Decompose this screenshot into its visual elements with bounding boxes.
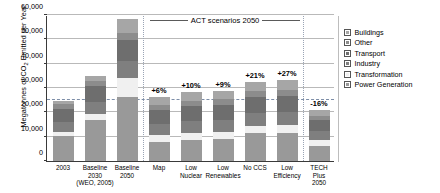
legend-item: Other bbox=[344, 38, 412, 47]
bar-segment bbox=[181, 121, 202, 133]
legend-label: Industry bbox=[355, 59, 381, 68]
y-tick-mark bbox=[44, 14, 47, 15]
bar bbox=[309, 110, 330, 161]
y-tick-mark bbox=[44, 87, 47, 88]
bar bbox=[117, 19, 138, 161]
bar bbox=[85, 76, 106, 161]
percent-change-label: +21% bbox=[245, 71, 264, 80]
bar bbox=[277, 80, 298, 161]
act-region-left-separator bbox=[143, 16, 144, 161]
bar-segment bbox=[117, 78, 138, 97]
bar-segment bbox=[117, 19, 138, 32]
y-tick-label: 50,000 bbox=[21, 26, 43, 35]
bar-segment bbox=[181, 140, 202, 161]
y-tick-label: 40,000 bbox=[21, 50, 43, 59]
bar-segment bbox=[245, 113, 266, 126]
bar-segment bbox=[245, 82, 266, 91]
bar-segment bbox=[213, 139, 234, 161]
percent-change-label: +9% bbox=[216, 80, 231, 89]
y-tick-label: 20,000 bbox=[21, 99, 43, 108]
chart-figure: Megatonnes of CO2 Emitted per Year 010,0… bbox=[0, 0, 440, 193]
act-scenarios-annotation: ACT scenarios 2050 bbox=[150, 16, 300, 25]
bar bbox=[213, 91, 234, 161]
bar-segment bbox=[181, 92, 202, 101]
percent-change-label: +27% bbox=[277, 69, 296, 78]
bar-segment bbox=[53, 136, 74, 161]
y-tick-label: 10,000 bbox=[21, 123, 43, 132]
x-tick-label: TECHPlus2050 bbox=[296, 164, 342, 187]
legend-item: Transport bbox=[344, 49, 412, 58]
bar-segment bbox=[309, 131, 330, 140]
act-annotation-label: ACT scenarios 2050 bbox=[191, 16, 260, 25]
legend-swatch bbox=[344, 39, 351, 46]
y-tick-mark bbox=[44, 111, 47, 112]
bar-segment bbox=[181, 106, 202, 120]
act-annotation-rule-right bbox=[262, 20, 300, 21]
gridline bbox=[47, 63, 334, 64]
legend: BuildingsOtherTransportIndustryTransform… bbox=[344, 28, 412, 89]
legend-item: Transformation bbox=[344, 70, 412, 79]
bar-segment bbox=[117, 61, 138, 78]
legend-label: Power Generation bbox=[355, 80, 413, 89]
bar-segment bbox=[245, 126, 266, 133]
bar-segment bbox=[245, 133, 266, 161]
percent-change-label: +6% bbox=[152, 86, 167, 95]
legend-item: Power Generation bbox=[344, 80, 412, 89]
bar bbox=[181, 92, 202, 161]
legend-swatch bbox=[344, 81, 351, 88]
bar-segment bbox=[245, 97, 266, 113]
legend-label: Transformation bbox=[355, 70, 403, 79]
percent-change-label: +10% bbox=[181, 81, 200, 90]
bar-segment bbox=[277, 112, 298, 125]
act-region-right-separator bbox=[303, 16, 304, 161]
y-tick-label: 60,000 bbox=[21, 2, 43, 11]
percent-change-label: -16% bbox=[310, 99, 327, 108]
bar-segment bbox=[85, 120, 106, 161]
bar-segment bbox=[213, 91, 234, 100]
bar-segment bbox=[53, 122, 74, 133]
bar-segment bbox=[277, 125, 298, 132]
bar-segment bbox=[149, 124, 170, 135]
y-tick-mark bbox=[44, 38, 47, 39]
bar-segment bbox=[149, 142, 170, 161]
bar-segment bbox=[213, 120, 234, 132]
bar-segment bbox=[277, 80, 298, 90]
legend-label: Other bbox=[355, 38, 373, 47]
gridline bbox=[47, 38, 334, 39]
bar-segment bbox=[149, 135, 170, 143]
bar-segment bbox=[117, 33, 138, 41]
legend-swatch bbox=[344, 50, 351, 57]
y-tick-mark bbox=[44, 63, 47, 64]
legend-item: Industry bbox=[344, 59, 412, 68]
legend-item: Buildings bbox=[344, 28, 412, 37]
bar-segment bbox=[309, 146, 330, 161]
y-axis-title-subscript: 2 bbox=[22, 62, 28, 65]
gridline bbox=[47, 14, 334, 15]
bar-segment bbox=[213, 105, 234, 120]
bar-segment bbox=[213, 132, 234, 139]
bar bbox=[149, 97, 170, 161]
legend-label: Buildings bbox=[355, 28, 384, 37]
bar-segment bbox=[149, 110, 170, 123]
bar-segment bbox=[149, 97, 170, 105]
bar-segment bbox=[85, 86, 106, 102]
y-tick-label: 0 bbox=[39, 148, 43, 157]
y-tick-mark bbox=[44, 160, 47, 161]
bar-segment bbox=[309, 120, 330, 131]
bar-segment bbox=[85, 102, 106, 114]
act-annotation-rule-left bbox=[150, 20, 188, 21]
bar-segment bbox=[117, 97, 138, 161]
plot-area: 010,00020,00030,00040,00050,00060,000 +6… bbox=[46, 16, 334, 162]
y-tick-mark bbox=[44, 136, 47, 137]
bar-segment bbox=[53, 109, 74, 122]
legend-label: Transport bbox=[355, 49, 386, 58]
bar-segment bbox=[117, 40, 138, 61]
bar-segment bbox=[181, 133, 202, 140]
bar-segment bbox=[277, 96, 298, 113]
bar-segment bbox=[277, 133, 298, 161]
legend-swatch bbox=[344, 29, 351, 36]
legend-swatch bbox=[344, 60, 351, 67]
bar bbox=[245, 82, 266, 161]
legend-swatch bbox=[344, 71, 351, 78]
bar bbox=[53, 101, 74, 161]
